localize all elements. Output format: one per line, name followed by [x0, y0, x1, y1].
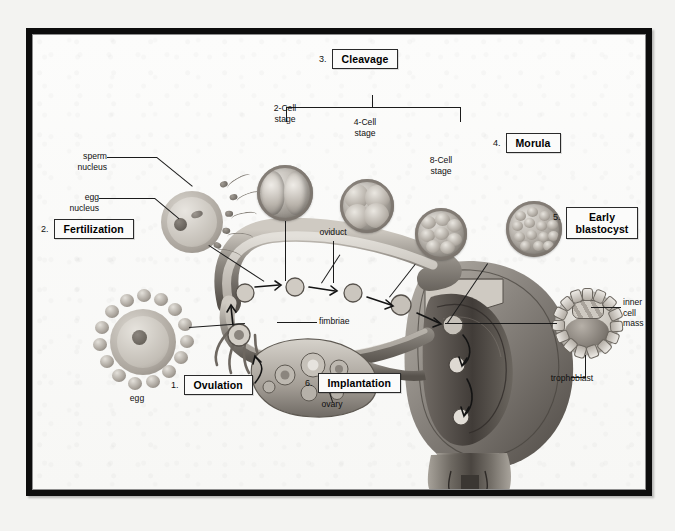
figure-frame: sperm nucleus egg nucleus 2-Cell stage 4… — [26, 28, 652, 496]
eight-cell-embryo — [415, 208, 467, 260]
two-cell-embryo — [257, 165, 313, 221]
step-number-6: 6. — [305, 373, 313, 393]
step-label-morula: Morula — [506, 133, 561, 153]
four-cell-embryo — [340, 179, 394, 233]
label-fimbriae: fimbriae — [319, 316, 350, 327]
leader-egg-nucleus — [99, 198, 155, 199]
step-number-2: 2. — [41, 219, 49, 239]
step-box-cleavage[interactable]: 3. Cleavage — [319, 49, 398, 69]
label-eight-cell-stage: 8-Cell stage — [411, 155, 471, 176]
leader-sperm-nucleus — [107, 157, 157, 158]
leader-two-cell — [285, 221, 286, 281]
leader-fimbriae — [277, 322, 317, 323]
label-oviduct: oviduct — [309, 227, 357, 238]
reproductive-tract-illustration — [33, 35, 646, 490]
step-box-early-blastocyst[interactable]: 5. Early blastocyst — [553, 207, 638, 239]
step-label-early-blastocyst: Early blastocyst — [566, 207, 639, 239]
step-box-implantation[interactable]: 6. Implantation — [305, 373, 401, 393]
step-label-cleavage: Cleavage — [332, 49, 399, 69]
step-label-fertilization: Fertilization — [54, 219, 134, 239]
leader-inner-cell-mass — [591, 307, 621, 308]
egg-nucleus-shape — [174, 218, 187, 231]
step-box-morula[interactable]: 4. Morula — [493, 133, 561, 153]
step-number-3: 3. — [319, 49, 327, 69]
step-number-5: 5. — [553, 207, 561, 227]
step-label-implantation: Implantation — [318, 373, 402, 393]
label-egg: egg — [117, 393, 157, 404]
step-number-4: 4. — [493, 133, 501, 153]
label-egg-nucleus: egg nucleus — [51, 192, 99, 213]
step-number-1: 1. — [171, 375, 179, 395]
figure-canvas: sperm nucleus egg nucleus 2-Cell stage 4… — [32, 34, 646, 490]
label-two-cell-stage: 2-Cell stage — [255, 103, 315, 124]
label-ovary: ovary — [311, 399, 353, 410]
label-four-cell-stage: 4-Cell stage — [335, 117, 395, 138]
label-sperm-nucleus: sperm nucleus — [51, 151, 107, 172]
leader-blastocyst — [445, 323, 557, 324]
step-label-ovulation: Ovulation — [184, 375, 253, 395]
label-inner-cell-mass: inner cell mass — [623, 297, 646, 329]
step-box-ovulation[interactable]: 1. Ovulation — [171, 375, 253, 395]
early-blastocyst — [555, 291, 619, 355]
label-trophoblast: trophoblast — [535, 373, 609, 384]
figure-page: sperm nucleus egg nucleus 2-Cell stage 4… — [0, 0, 675, 531]
step-box-fertilization[interactable]: 2. Fertilization — [41, 219, 134, 239]
